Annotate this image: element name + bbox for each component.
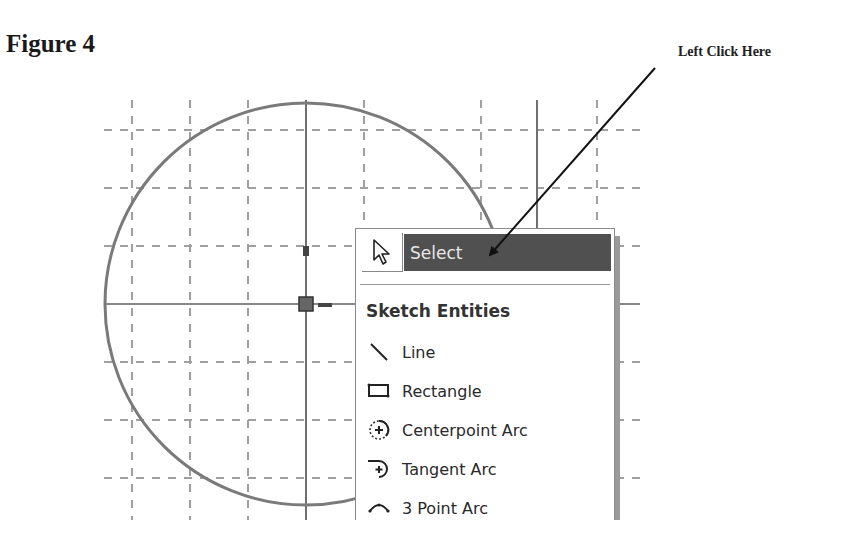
arrow-cursor-icon: [371, 238, 393, 266]
menu-item-select[interactable]: Select: [360, 233, 611, 273]
menu-item-rectangle[interactable]: Rectangle: [362, 372, 612, 410]
menu-item-label: Tangent Arc: [396, 460, 497, 479]
select-label: Select: [404, 243, 462, 263]
context-menu: Select Sketch Entities Line Rectangle Ce…: [355, 228, 615, 520]
menu-item-label: Line: [396, 343, 435, 362]
line-icon: [362, 337, 396, 367]
select-icon-box[interactable]: [362, 233, 403, 272]
menu-item-tangent-arc[interactable]: Tangent Arc: [362, 450, 612, 488]
menu-shadow: [615, 236, 620, 520]
three-point-arc-icon: [362, 493, 396, 520]
menu-item-label: Rectangle: [396, 382, 482, 401]
rectangle-icon: [362, 376, 396, 406]
menu-item-centerpoint-arc[interactable]: Centerpoint Arc: [362, 411, 612, 449]
group-heading-sketch-entities: Sketch Entities: [366, 301, 510, 321]
menu-item-label: Centerpoint Arc: [396, 421, 528, 440]
circle-center-point[interactable]: [299, 297, 313, 311]
vertical-handle[interactable]: [303, 246, 309, 256]
select-highlight[interactable]: Select: [404, 234, 611, 271]
menu-separator: [360, 284, 610, 285]
menu-item-three-point-arc[interactable]: 3 Point Arc: [362, 489, 612, 520]
menu-item-label: 3 Point Arc: [396, 499, 488, 518]
menu-item-line[interactable]: Line: [362, 333, 612, 371]
tangent-arc-icon: [362, 454, 396, 484]
centerpoint-arc-icon: [362, 415, 396, 445]
